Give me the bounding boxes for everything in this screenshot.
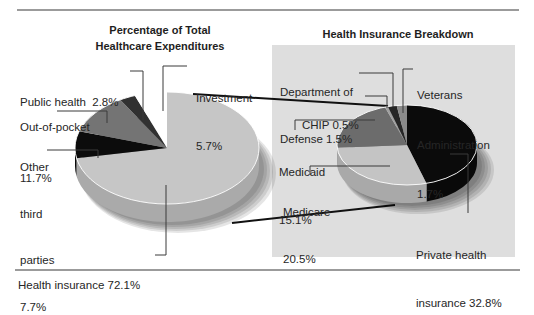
label-health-insurance: Health insurance 72.1% (18, 245, 140, 315)
right-chart-title: Health Insurance Breakdown (298, 27, 498, 43)
right-chart-title-text: Health Insurance Breakdown (298, 27, 498, 43)
label-chip-text: CHIP 0.5% (302, 117, 359, 133)
label-medicare-name: Medicare (283, 205, 330, 221)
label-private-health-insurance: Private health insurance 32.8% (416, 215, 502, 315)
label-investment-name: Investment (196, 90, 252, 106)
label-investment: Investment 5.7% (196, 58, 252, 186)
left-chart-title-line-2: Healthcare Expenditures (60, 39, 260, 55)
label-other-third-parties-line-1: Other (20, 160, 55, 176)
label-private-line-2: insurance 32.8% (416, 295, 502, 311)
label-medicare: Medicare 20.5% (283, 174, 330, 298)
label-va-value: 1.7% (417, 186, 490, 203)
label-va-line-2: Administration (417, 137, 490, 154)
left-chart-title: Percentage of Total Healthcare Expenditu… (60, 23, 260, 54)
label-medicare-value: 20.5% (283, 252, 330, 268)
label-private-line-1: Private health (416, 247, 502, 263)
label-investment-value: 5.7% (196, 138, 252, 154)
label-veterans-administration: Veterans Administration 1.7% (417, 54, 490, 236)
left-chart-title-line-1: Percentage of Total (60, 23, 260, 39)
label-va-line-1: Veterans (417, 87, 490, 104)
label-other-third-parties-line-2: third (20, 207, 55, 223)
label-health-insurance-text: Health insurance 72.1% (18, 277, 140, 293)
